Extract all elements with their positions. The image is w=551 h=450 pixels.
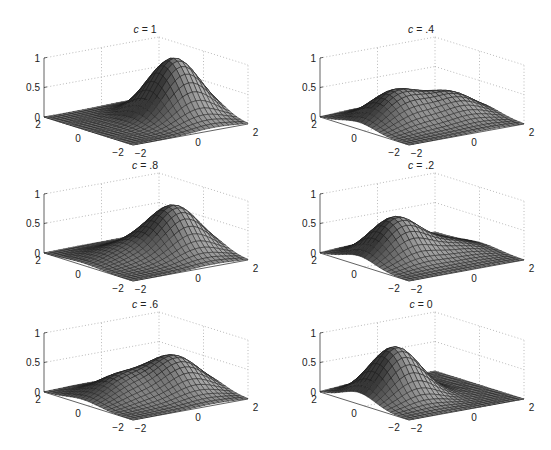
y-tick-label: 0 — [75, 408, 81, 419]
z-tick-label: 1 — [34, 53, 40, 64]
z-tick-label: 0.5 — [26, 82, 40, 93]
z-tick-label: 0.5 — [302, 357, 316, 368]
surface-plot-panel: c= 0 00.51−202−202 — [276, 275, 551, 435]
z-tick-label: 1 — [34, 328, 40, 339]
grid-line — [435, 37, 524, 65]
x-tick-label: 0 — [471, 412, 477, 423]
z-tick-mark — [44, 57, 47, 58]
grid-line — [435, 173, 524, 201]
z-tick-mark — [44, 362, 47, 363]
surface-plot-panel: c= .6 00.51−202−202 — [0, 275, 275, 435]
x-tick-label: 2 — [529, 402, 535, 413]
x-tick-label: 0 — [195, 412, 201, 423]
y-tick-label: 2 — [311, 394, 317, 405]
grid-line — [159, 312, 248, 340]
surface-mesh — [44, 58, 248, 145]
z-tick-mark — [320, 57, 323, 58]
z-tick-label: 0.5 — [302, 82, 316, 93]
x-tick-label: −2 — [411, 423, 423, 434]
surface-plot-panel: c= .8 00.51−202−202 — [0, 136, 275, 296]
y-tick-label: 2 — [35, 255, 41, 266]
z-tick-mark — [44, 223, 47, 224]
z-tick-mark — [320, 193, 323, 194]
y-tick-label: 2 — [311, 255, 317, 266]
y-tick-label: 2 — [35, 394, 41, 405]
grid-line — [435, 312, 524, 340]
z-tick-mark — [320, 362, 323, 363]
x-tick-label: 2 — [253, 263, 259, 274]
surface-plot-panel: c= .2 00.51−202−202 — [276, 136, 551, 296]
z-tick-label: 1 — [310, 189, 316, 200]
z-tick-mark — [44, 193, 47, 194]
z-tick-label: 0.5 — [26, 218, 40, 229]
y-tick-label: −2 — [388, 422, 400, 433]
z-tick-mark — [320, 332, 323, 333]
z-tick-label: 1 — [310, 328, 316, 339]
y-tick-label: 2 — [311, 119, 317, 130]
y-tick-label: −2 — [112, 422, 124, 433]
z-tick-mark — [44, 332, 47, 333]
x-tick-label: −2 — [135, 423, 147, 434]
x-tick-label: 2 — [253, 402, 259, 413]
z-tick-label: 1 — [310, 53, 316, 64]
z-tick-label: 0.5 — [26, 357, 40, 368]
z-tick-label: 0.5 — [302, 218, 316, 229]
x-tick-label: 2 — [529, 263, 535, 274]
z-tick-mark — [320, 87, 323, 88]
z-tick-label: 1 — [34, 189, 40, 200]
surface-plot: 00.51−202−202 — [0, 275, 290, 445]
z-tick-mark — [44, 87, 47, 88]
surface-plot: 00.51−202−202 — [276, 275, 551, 445]
y-tick-label: 0 — [351, 408, 357, 419]
y-tick-label: 2 — [35, 119, 41, 130]
z-tick-mark — [320, 223, 323, 224]
grid-line — [159, 173, 248, 201]
